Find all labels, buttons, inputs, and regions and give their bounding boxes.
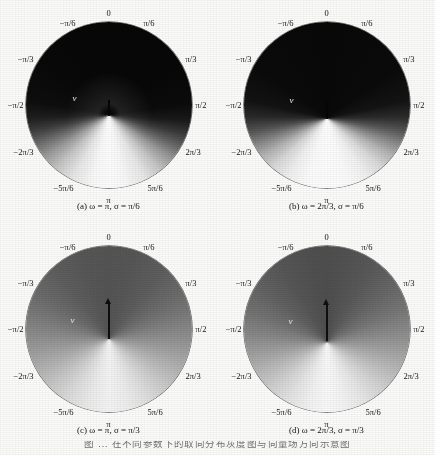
tick-label-pi6-b: π/6 xyxy=(362,19,373,28)
tick-label-negpi2-b: −π/2 xyxy=(226,101,242,110)
tick-label-negpi6-b: −π/6 xyxy=(278,19,294,28)
tick-label-2pi3-a: 2π/3 xyxy=(186,148,201,157)
cusp-mark-a xyxy=(108,100,110,116)
tick-label-pi2-b: π/2 xyxy=(414,101,425,110)
tick-label-5pi6-c: 5π/6 xyxy=(148,408,163,417)
figure-caption-cropped: 图 ... 在不同参数下的取向分布灰度图与向量场方向示意图 xyxy=(0,441,435,455)
tick-label-0-c: 0 xyxy=(106,233,110,242)
tick-label-negpi3-a: −π/3 xyxy=(18,55,34,64)
tick-label-0-d: 0 xyxy=(324,233,328,242)
tick-label-pi6-c: π/6 xyxy=(144,243,155,252)
panel-caption-c: (c) ω = π, σ = π/3 xyxy=(0,426,217,436)
figure-panel-d: ν 0 π/6 π/3 π/2 2π/3 5π/6 π −5π/6 −2π/3 … xyxy=(218,224,435,446)
tick-label-neg5pi6-c: −5π/6 xyxy=(54,408,74,417)
figure-panel-a: ν 0 π/6 π/3 π/2 2π/3 5π/6 π −5π/6 −2π/3 … xyxy=(0,0,217,222)
tick-label-neg2pi3-b: −2π/3 xyxy=(232,148,252,157)
polar-disc-a: ν 0 π/6 π/3 π/2 2π/3 5π/6 π −5π/6 −2π/3 … xyxy=(26,22,192,188)
tick-label-negpi3-c: −π/3 xyxy=(18,279,34,288)
tick-label-0-b: 0 xyxy=(324,9,328,18)
nu-center-label-b: ν xyxy=(290,96,294,105)
tick-label-pi2-d: π/2 xyxy=(414,325,425,334)
tick-label-neg5pi6-b: −5π/6 xyxy=(272,184,292,193)
nu-center-label-c: ν xyxy=(71,316,75,325)
orientation-arrow-c xyxy=(108,303,110,339)
tick-label-negpi2-d: −π/2 xyxy=(226,325,242,334)
panel-caption-d: (d) ω = 2π/3, σ = π/3 xyxy=(218,426,435,436)
tick-label-pi3-a: π/3 xyxy=(186,55,197,64)
orientation-arrow-d xyxy=(326,304,328,341)
tick-label-neg5pi6-d: −5π/6 xyxy=(272,408,292,417)
tick-label-negpi3-d: −π/3 xyxy=(236,279,252,288)
tick-label-negpi6-a: −π/6 xyxy=(60,19,76,28)
polar-disc-d: ν 0 π/6 π/3 π/2 2π/3 5π/6 π −5π/6 −2π/3 … xyxy=(244,246,410,412)
tick-label-pi2-c: π/2 xyxy=(196,325,207,334)
tick-label-pi6-a: π/6 xyxy=(144,19,155,28)
tick-label-0-a: 0 xyxy=(106,9,110,18)
tick-label-pi3-b: π/3 xyxy=(404,55,415,64)
panel-caption-b: (b) ω = 2π/3, σ = π/6 xyxy=(218,202,435,212)
tick-label-2pi3-c: 2π/3 xyxy=(186,372,201,381)
nu-center-label-a: ν xyxy=(73,94,77,103)
polar-disc-b: ν 0 π/6 π/3 π/2 2π/3 5π/6 π −5π/6 −2π/3 … xyxy=(244,22,410,188)
tick-label-negpi6-c: −π/6 xyxy=(60,243,76,252)
tick-label-5pi6-a: 5π/6 xyxy=(148,184,163,193)
tick-label-5pi6-d: 5π/6 xyxy=(366,408,381,417)
tick-label-neg5pi6-a: −5π/6 xyxy=(54,184,74,193)
tick-label-5pi6-b: 5π/6 xyxy=(366,184,381,193)
panel-caption-a: (a) ω = π, σ = π/6 xyxy=(0,202,217,212)
tick-label-pi3-c: π/3 xyxy=(186,279,197,288)
figure-caption-text: 图 ... 在不同参数下的取向分布灰度图与向量场方向示意图 xyxy=(84,441,351,450)
tick-label-negpi2-a: −π/2 xyxy=(8,101,24,110)
figure-panel-c: ν 0 π/6 π/3 π/2 2π/3 5π/6 π −5π/6 −2π/3 … xyxy=(0,224,217,446)
tick-label-negpi2-c: −π/2 xyxy=(8,325,24,334)
tick-label-neg2pi3-c: −2π/3 xyxy=(14,372,34,381)
tick-label-2pi3-b: 2π/3 xyxy=(404,148,419,157)
tick-label-negpi3-b: −π/3 xyxy=(236,55,252,64)
figure-panel-grid: ν 0 π/6 π/3 π/2 2π/3 5π/6 π −5π/6 −2π/3 … xyxy=(0,0,435,440)
tick-label-pi2-a: π/2 xyxy=(196,101,207,110)
tick-label-2pi3-d: 2π/3 xyxy=(404,372,419,381)
figure-panel-b: ν 0 π/6 π/3 π/2 2π/3 5π/6 π −5π/6 −2π/3 … xyxy=(218,0,435,222)
tick-label-neg2pi3-a: −2π/3 xyxy=(14,148,34,157)
tick-label-negpi6-d: −π/6 xyxy=(278,243,294,252)
tick-label-neg2pi3-d: −2π/3 xyxy=(232,372,252,381)
tick-label-pi6-d: π/6 xyxy=(362,243,373,252)
cusp-mark-b xyxy=(326,102,328,119)
nu-center-label-d: ν xyxy=(289,317,293,326)
tick-label-pi3-d: π/3 xyxy=(404,279,415,288)
scanned-page: ν 0 π/6 π/3 π/2 2π/3 5π/6 π −5π/6 −2π/3 … xyxy=(0,0,435,455)
polar-disc-c: ν 0 π/6 π/3 π/2 2π/3 5π/6 π −5π/6 −2π/3 … xyxy=(26,246,192,412)
